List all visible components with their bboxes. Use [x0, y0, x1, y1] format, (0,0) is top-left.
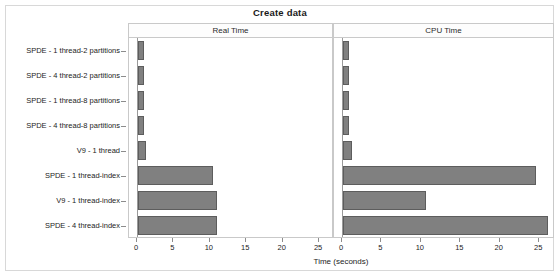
x-axis-tick-label: 20 [277, 243, 285, 252]
x-axis-tick [499, 238, 500, 242]
bar-row [334, 163, 553, 188]
x-axis-tick-label: 25 [314, 243, 322, 252]
bar [343, 91, 349, 110]
y-axis-category-label: SPDE - 1 thread-index [45, 163, 120, 188]
x-axis-tick-label: 5 [170, 243, 174, 252]
y-axis-tick [121, 101, 126, 102]
bar [138, 216, 217, 235]
bar-row [334, 188, 553, 213]
y-axis-category-label: SPDE - 4 thread-8 partitions [26, 113, 120, 138]
bar [138, 66, 144, 85]
panel-header-real-time: Real Time [128, 23, 333, 38]
x-axis-tick [209, 238, 210, 242]
x-axis-tick-label: 0 [134, 243, 138, 252]
y-axis-category-label: SPDE - 4 thread-2 partitions [26, 63, 120, 88]
bar [138, 91, 144, 110]
panel-header-cpu-time-label: CPU Time [425, 26, 461, 35]
bar [343, 116, 349, 135]
x-axis-title: Time (seconds) [128, 257, 554, 266]
y-axis-category-label: SPDE - 1 thread-8 partitions [26, 88, 120, 113]
x-axis-tick [282, 238, 283, 242]
x-axis-tick [172, 238, 173, 242]
x-axis-tick-label: 5 [378, 243, 382, 252]
x-axis-tick-label: 10 [416, 243, 424, 252]
x-axis-tick [420, 238, 421, 242]
y-axis-category-label: SPDE - 1 thread-2 partitions [26, 38, 120, 63]
bar [343, 166, 536, 185]
bar-row [129, 88, 332, 113]
x-axis-tick [380, 238, 381, 242]
bar [343, 141, 352, 160]
bar-row [129, 138, 332, 163]
y-axis-tick [121, 176, 126, 177]
bar [343, 216, 548, 235]
y-axis-tick [121, 51, 126, 52]
bar-row [334, 38, 553, 63]
y-axis-tick [121, 201, 126, 202]
x-axis-tick [459, 238, 460, 242]
y-axis-tick [121, 226, 126, 227]
x-axis-tick [341, 238, 342, 242]
bar-row [129, 113, 332, 138]
bar-row [129, 188, 332, 213]
x-axis-tick [245, 238, 246, 242]
bar [138, 116, 144, 135]
panel-header-real-time-label: Real Time [212, 26, 248, 35]
bar [138, 166, 213, 185]
x-axis-tick-label: 0 [339, 243, 343, 252]
panel-plot-real-time [128, 38, 333, 238]
y-axis-category-label: V9 - 1 thread [77, 138, 120, 163]
bar-row [129, 38, 332, 63]
x-axis-tick-label: 10 [205, 243, 213, 252]
x-axis-tick [136, 238, 137, 242]
bar-row [129, 163, 332, 188]
bar-row [334, 63, 553, 88]
y-axis-tick [121, 76, 126, 77]
bar-row [129, 63, 332, 88]
panel-header-cpu-time: CPU Time [333, 23, 554, 38]
bar-row [334, 213, 553, 238]
y-axis-tick [121, 126, 126, 127]
x-axis-tick-label: 15 [455, 243, 463, 252]
y-axis-category-labels: SPDE - 1 thread-2 partitionsSPDE - 4 thr… [0, 38, 126, 238]
bar [138, 41, 144, 60]
bar-row [334, 138, 553, 163]
bar-row [334, 88, 553, 113]
bar-row [129, 213, 332, 238]
y-axis-category-label: V9 - 1 thread-index [56, 188, 120, 213]
bar-row [334, 113, 553, 138]
x-axis-tick [538, 238, 539, 242]
x-axis-tick-label: 15 [241, 243, 249, 252]
chart-title: Create data [0, 7, 560, 18]
bar [138, 191, 217, 210]
bar [343, 66, 349, 85]
chart-figure: Create data Real Time CPU Time SPDE - 1 … [0, 0, 560, 278]
bar [343, 191, 426, 210]
bar [138, 141, 146, 160]
x-axis-tick-label: 20 [495, 243, 503, 252]
panel-plot-cpu-time [333, 38, 554, 238]
x-axis-tick-label: 25 [534, 243, 542, 252]
bar [343, 41, 349, 60]
y-axis-category-label: SPDE - 4 thread-index [45, 213, 120, 238]
y-axis-tick [121, 151, 126, 152]
x-axis-tick [318, 238, 319, 242]
